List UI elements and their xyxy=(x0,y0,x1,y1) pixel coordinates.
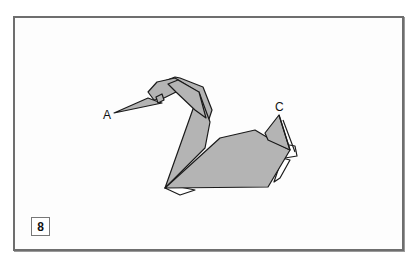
step-number-badge: 8 xyxy=(31,217,50,236)
step-number: 8 xyxy=(37,220,44,234)
label-point-a: A xyxy=(103,108,111,122)
label-point-c: C xyxy=(275,100,284,114)
beak xyxy=(114,98,162,113)
swan-illustration xyxy=(0,0,418,266)
